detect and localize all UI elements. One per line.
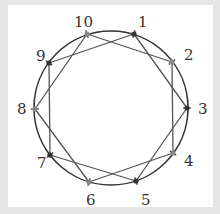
edge-2-4 xyxy=(172,62,173,153)
point-2 xyxy=(169,59,174,64)
point-label-2: 2 xyxy=(184,46,194,64)
point-4 xyxy=(170,150,175,155)
point-label-8: 8 xyxy=(17,100,27,118)
edge-7-9 xyxy=(49,63,50,155)
point-1 xyxy=(131,31,136,36)
circle-star-diagram: 12345678910 xyxy=(0,0,220,214)
point-6 xyxy=(86,179,91,184)
point-5 xyxy=(133,178,138,183)
point-label-7: 7 xyxy=(37,154,47,172)
point-label-9: 9 xyxy=(36,47,46,65)
point-7 xyxy=(47,152,52,157)
point-label-10: 10 xyxy=(74,13,93,31)
point-label-6: 6 xyxy=(86,191,96,209)
point-3 xyxy=(184,105,189,110)
point-label-3: 3 xyxy=(198,100,208,118)
point-10 xyxy=(84,31,89,36)
point-label-5: 5 xyxy=(141,191,151,209)
point-label-1: 1 xyxy=(138,13,148,31)
outer-circle xyxy=(34,31,188,185)
point-label-4: 4 xyxy=(184,152,194,170)
point-8 xyxy=(32,106,37,111)
point-9 xyxy=(46,60,51,65)
